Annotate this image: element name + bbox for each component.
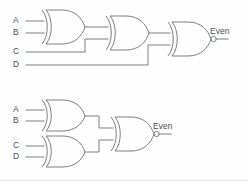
circuit-cascade-chain: A B C D Even xyxy=(13,10,230,69)
wire-h2-to-h3 xyxy=(85,140,113,152)
inversion-bubble-icon xyxy=(211,36,216,41)
circuit-tree-chain: A B C D Even xyxy=(13,100,173,167)
output-label-even-bottom: Even xyxy=(153,121,173,131)
input-label-c-bottom: C xyxy=(13,140,19,150)
input-label-b-top: B xyxy=(13,27,19,37)
input-label-a-top: A xyxy=(13,15,19,25)
wire-c-to-g2 xyxy=(26,39,108,52)
circuit-diagram-canvas: A B C D Even xyxy=(0,0,248,181)
gate-xor-g2 xyxy=(106,16,149,50)
gate-xor-h1 xyxy=(42,100,85,131)
gate-xnor-g3 xyxy=(168,22,216,56)
input-label-d-top: D xyxy=(13,59,19,69)
gate-xor-g1 xyxy=(42,10,85,44)
input-label-d-bottom: D xyxy=(13,151,19,161)
gate-xor-h2 xyxy=(42,136,85,167)
wire-d-to-g3 xyxy=(26,45,170,65)
wire-h1-to-h3 xyxy=(85,116,113,128)
input-label-a-bottom: A xyxy=(13,104,19,114)
gate-xnor-h3 xyxy=(111,117,159,151)
input-label-b-bottom: B xyxy=(13,115,19,125)
inversion-bubble-icon xyxy=(154,131,159,136)
input-label-c-top: C xyxy=(13,46,19,56)
diagram-root: A B C D Even xyxy=(0,0,248,181)
output-label-even-top: Even xyxy=(210,26,230,36)
